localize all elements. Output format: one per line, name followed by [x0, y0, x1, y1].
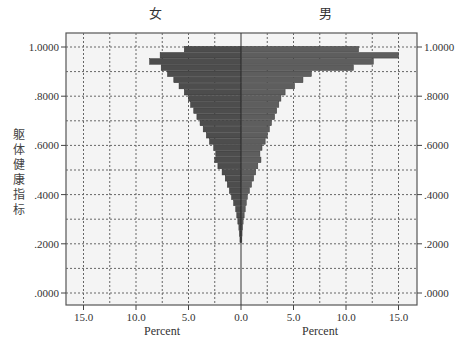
x-tick-label: 5.0 [287, 311, 301, 323]
bar-male [241, 120, 271, 126]
y-tick-label: .0000 [34, 287, 59, 299]
x-tick-label: 5.0 [182, 311, 196, 323]
y-tick-label: .8000 [424, 90, 449, 102]
x-axis: 15.010.05.00.05.010.015.0 [74, 305, 409, 323]
bar-female [174, 77, 241, 83]
bar-male [241, 53, 399, 59]
bar-female [184, 89, 241, 95]
x-tick-label: 10.0 [126, 311, 146, 323]
bar-male [241, 163, 258, 169]
bar-male [241, 65, 353, 71]
y-tick-label: .4000 [34, 189, 59, 201]
bar-female [150, 59, 241, 65]
x-tick-label: 15.0 [74, 311, 94, 323]
bar-male [241, 200, 246, 206]
y-tick-label: .4000 [424, 189, 449, 201]
bar-male [241, 59, 373, 65]
x-tick-label: 10.0 [336, 311, 356, 323]
x-tick-label: 0.0 [234, 311, 248, 323]
bar-female [236, 206, 241, 212]
bar-male [241, 157, 261, 163]
bar-female [160, 53, 241, 59]
bar-male [241, 145, 262, 151]
bar-female [215, 157, 241, 163]
title-female: 女 [149, 6, 162, 21]
bar-female [203, 126, 241, 132]
bar-male [241, 206, 245, 212]
y-tick-label: .2000 [34, 238, 59, 250]
population-pyramid-chart: 女 男 .0000.2000.4000.6000.80001.0000 .000… [0, 0, 465, 354]
y-tick-label: .0000 [424, 287, 449, 299]
bar-male [241, 182, 252, 188]
title-male: 男 [319, 6, 332, 21]
bar-male [241, 132, 267, 138]
bar-male [241, 169, 256, 175]
bar-female [161, 65, 241, 71]
y-tick-label: .6000 [34, 139, 59, 151]
x-axis-label-left: Percent [144, 324, 181, 338]
bar-female [237, 212, 241, 218]
bar-male [241, 46, 359, 52]
bar-female [218, 163, 241, 169]
bar-male [241, 188, 249, 194]
y-axis-label: 躯体健康指标 [12, 128, 26, 218]
bar-female [227, 182, 241, 188]
bar-male [241, 151, 260, 157]
bar-male [241, 102, 279, 108]
bar-male [241, 96, 281, 102]
bar-female [179, 83, 241, 89]
bar-female [184, 46, 241, 52]
bar-female [216, 151, 241, 157]
y-axis-left: .0000.2000.4000.6000.80001.0000 [29, 41, 66, 299]
x-tick-label: 15.0 [389, 311, 409, 323]
bar-male [241, 77, 303, 83]
bar-male [241, 108, 277, 114]
bar-male [241, 89, 285, 95]
bar-female [194, 108, 241, 114]
bar-male [241, 126, 269, 132]
bar-male [241, 71, 311, 77]
y-axis-right: .0000.2000.4000.6000.80001.0000 [417, 41, 455, 299]
bar-female [232, 194, 241, 200]
y-tick-label: 1.0000 [29, 41, 60, 53]
bar-female [197, 114, 241, 120]
bar-female [229, 188, 241, 194]
bar-male [241, 83, 295, 89]
bar-male [241, 194, 247, 200]
bar-female [225, 176, 241, 182]
bar-female [234, 200, 241, 206]
y-tick-label: .8000 [34, 90, 59, 102]
y-tick-label: .2000 [424, 238, 449, 250]
bar-female [222, 169, 241, 175]
bar-female [191, 102, 241, 108]
bar-female [189, 96, 242, 102]
y-tick-label: 1.0000 [424, 41, 455, 53]
bar-female [206, 132, 241, 138]
bar-female [168, 71, 242, 77]
bar-male [241, 139, 265, 145]
bar-male [241, 114, 275, 120]
bar-female [200, 120, 241, 126]
x-axis-label-right: Percent [302, 324, 339, 338]
bar-male [241, 176, 254, 182]
bar-female [210, 139, 242, 145]
bar-female [214, 145, 241, 151]
y-tick-label: .6000 [424, 139, 449, 151]
